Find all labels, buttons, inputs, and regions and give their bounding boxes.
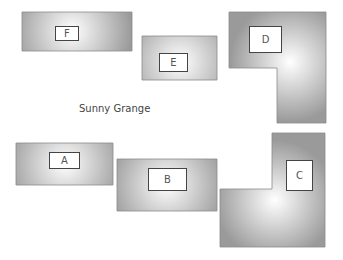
blocks-layer (0, 0, 343, 260)
site-name-label: Sunny Grange (79, 103, 150, 114)
block-label-c: C (286, 160, 313, 191)
block-label-d: D (249, 26, 282, 53)
block-label-e: E (159, 53, 188, 72)
block-label-f: F (55, 26, 79, 41)
block-label-a: A (49, 152, 80, 169)
block-label-b: B (148, 168, 187, 191)
site-plan-diagram: Sunny Grange F E D A B C (0, 0, 343, 260)
